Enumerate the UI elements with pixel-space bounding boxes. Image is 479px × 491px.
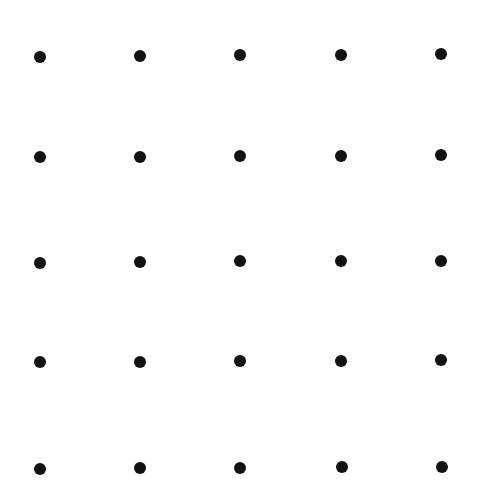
grid-dot-r1-c1 bbox=[34, 51, 46, 63]
grid-dot-r2-c3 bbox=[234, 150, 246, 162]
grid-dot-r1-c2 bbox=[134, 50, 146, 62]
grid-dot-r4-c4 bbox=[335, 355, 347, 367]
grid-dot-r4-c1 bbox=[34, 356, 46, 368]
grid-dot-r5-c5 bbox=[436, 461, 448, 473]
grid-dot-r3-c4 bbox=[335, 255, 347, 267]
grid-dot-r5-c1 bbox=[34, 463, 46, 475]
dot-grid bbox=[0, 0, 479, 491]
grid-dot-r5-c2 bbox=[134, 462, 146, 474]
grid-dot-r1-c5 bbox=[435, 48, 447, 60]
grid-dot-r2-c5 bbox=[435, 149, 447, 161]
grid-dot-r1-c4 bbox=[335, 49, 347, 61]
grid-dot-r2-c4 bbox=[335, 150, 347, 162]
grid-dot-r4-c2 bbox=[134, 356, 146, 368]
grid-dot-r3-c5 bbox=[435, 255, 447, 267]
grid-dot-r5-c3 bbox=[234, 462, 246, 474]
grid-dot-r3-c1 bbox=[34, 257, 46, 269]
grid-dot-r4-c5 bbox=[435, 354, 447, 366]
grid-dot-r2-c2 bbox=[134, 151, 146, 163]
grid-dot-r1-c3 bbox=[234, 49, 246, 61]
grid-dot-r3-c2 bbox=[134, 256, 146, 268]
grid-dot-r5-c4 bbox=[336, 461, 348, 473]
grid-dot-r2-c1 bbox=[34, 151, 46, 163]
grid-dot-r3-c3 bbox=[234, 255, 246, 267]
grid-dot-r4-c3 bbox=[234, 355, 246, 367]
